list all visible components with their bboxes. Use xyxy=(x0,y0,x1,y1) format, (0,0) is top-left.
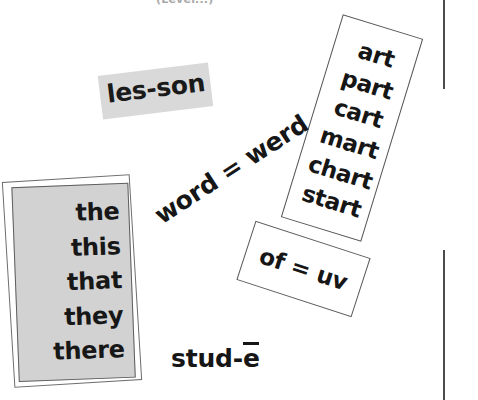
long-e-macron-vowel: e xyxy=(243,344,260,373)
stud-long-e-phrase: stud-e xyxy=(171,344,260,373)
sight-word-item: this xyxy=(70,229,121,265)
lesson-word-label: les-son xyxy=(105,68,206,109)
sight-word-list-card[interactable]: the this that they there xyxy=(4,176,140,387)
of-equals-uv-label: of = uv xyxy=(256,243,351,296)
stud-prefix-text: stud- xyxy=(171,344,243,373)
lesson-word-chip[interactable]: les-son xyxy=(98,62,214,119)
margin-rule-top xyxy=(443,0,445,89)
worksheet-canvas: (Level...) les-son the this that they th… xyxy=(0,0,478,400)
sight-word-item: they xyxy=(63,298,124,335)
sight-word-item: there xyxy=(53,332,126,369)
sight-word-item: the xyxy=(75,194,120,230)
sight-word-list-panel: the this that they there xyxy=(11,183,135,382)
sight-word-item: that xyxy=(66,263,122,300)
margin-rule-bottom xyxy=(443,250,445,400)
header-snippet-text: (Level...) xyxy=(156,0,213,6)
